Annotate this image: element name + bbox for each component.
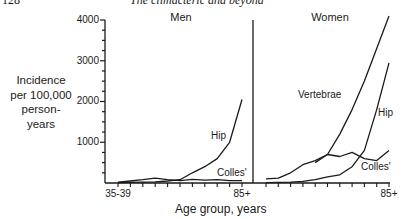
panel-title-men: Men [170,11,191,23]
y-tick-label-2000: 2000 [77,95,100,106]
men-colles--line [118,178,242,182]
y-tick-label-1000: 1000 [77,136,100,147]
panel-title-women: Women [311,11,349,23]
fracture-incidence-chart: 4000 3000 2000 1000 35-39 85+ 85+ Men Wo… [0,0,402,219]
label-men-colles: Colles' [217,167,247,178]
x-tick-label-women-85plus: 85+ [381,188,398,199]
x-tick-label-35-39: 35-39 [105,188,131,199]
y-axis-ticks [100,20,105,173]
y-tick-label-4000: 4000 [77,14,100,25]
label-women-vertebrae: Vertebrae [298,89,342,100]
label-women-hip: Hip [378,107,393,118]
label-women-colles: Colles' [361,161,391,172]
x-tick-label-men-85plus: 85+ [234,188,251,199]
y-tick-label-3000: 3000 [77,55,100,66]
label-men-hip: Hip [211,130,226,141]
